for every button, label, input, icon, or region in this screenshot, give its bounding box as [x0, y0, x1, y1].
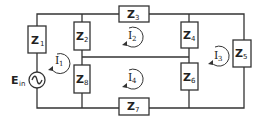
mesh-current-i4: I 4: [122, 69, 143, 89]
impedance-z6: Z 6: [181, 63, 198, 90]
circuit-diagram: Z 1 Z 2 Z 3 Z 4 Z 5 Z 6 Z 7 Z 8: [0, 0, 267, 124]
svg-text:6: 6: [191, 77, 196, 85]
impedance-z8: Z 8: [74, 65, 90, 93]
svg-text:Z: Z: [127, 100, 135, 113]
svg-text:7: 7: [135, 106, 139, 114]
svg-text:Z: Z: [183, 71, 191, 84]
ac-source: E in: [11, 72, 45, 88]
impedance-z4: Z 4: [181, 22, 198, 48]
svg-text:Z: Z: [76, 73, 84, 86]
svg-text:Z: Z: [235, 47, 243, 60]
svg-text:E: E: [11, 74, 19, 87]
svg-text:3: 3: [218, 55, 222, 63]
svg-text:Z: Z: [31, 34, 39, 47]
svg-text:Z: Z: [183, 29, 191, 42]
impedance-z2: Z 2: [74, 22, 90, 50]
impedance-z1: Z 1: [28, 26, 46, 53]
mesh-current-i2: I 2: [122, 27, 143, 47]
impedance-z3: Z 3: [119, 6, 149, 22]
svg-text:4: 4: [132, 77, 137, 85]
svg-text:8: 8: [84, 79, 88, 87]
impedance-z5: Z 5: [233, 40, 251, 67]
svg-text:in: in: [19, 80, 25, 88]
mesh-current-i1: I 1: [48, 54, 70, 74]
svg-text:1: 1: [59, 60, 63, 68]
mesh-current-i3: I 3: [208, 46, 229, 66]
svg-text:4: 4: [191, 35, 196, 43]
svg-text:Z: Z: [127, 8, 135, 21]
svg-text:2: 2: [84, 36, 88, 44]
svg-text:2: 2: [132, 35, 136, 43]
svg-text:Z: Z: [76, 30, 84, 43]
impedance-z7: Z 7: [119, 98, 149, 115]
svg-text:3: 3: [135, 14, 139, 22]
svg-text:1: 1: [40, 40, 44, 48]
svg-text:5: 5: [243, 53, 247, 61]
